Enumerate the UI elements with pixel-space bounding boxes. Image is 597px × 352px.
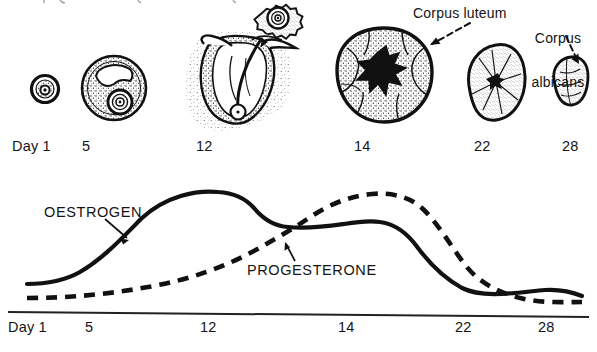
corpus-albicans-line-1: Corpus: [525, 31, 591, 46]
axis-tick-label-day-1: Day 1: [8, 320, 47, 335]
corpus-albicans-line-2: albicans: [525, 75, 591, 90]
axis-tick-label-5: 5: [85, 320, 93, 335]
series-label-oestrogen: OESTROGEN: [44, 205, 142, 220]
corpus-luteum-annotation: Corpus luteum: [413, 6, 507, 21]
illustration-day-14-corpus-luteum: [337, 28, 432, 122]
axis-tick-label-22: 22: [455, 320, 472, 335]
progesterone-leader-line: [285, 242, 296, 261]
ovarian-cycle-figure: Corpus luteum Corpus albicans Day 1 5 12…: [0, 0, 597, 352]
top-day-label-5: 5: [82, 139, 90, 154]
top-day-label-22: 22: [474, 139, 491, 154]
top-day-label-14: 14: [354, 139, 371, 154]
axis-tick-label-28: 28: [538, 320, 555, 335]
cropped-caption-remnants: [44, 0, 236, 3]
illustration-day-12-ovulation: [186, 5, 303, 131]
series-label-progesterone: PROGESTERONE: [247, 263, 377, 278]
x-axis-baseline: [8, 312, 589, 317]
corpus-albicans-annotation: Corpus albicans: [525, 2, 591, 120]
figure-canvas: [0, 0, 597, 352]
top-day-label-1: Day 1: [12, 139, 51, 154]
illustration-day-22-regressing-corpus-luteum: [469, 45, 526, 121]
top-day-label-28: 28: [562, 139, 579, 154]
illustration-day-5-graafian-follicle: [82, 56, 146, 120]
axis-tick-label-12: 12: [200, 320, 217, 335]
corpus-luteum-leader-line: [430, 23, 470, 45]
illustration-day-1-primordial-follicle: [32, 76, 59, 103]
top-day-label-12: 12: [196, 139, 213, 154]
axis-tick-label-14: 14: [338, 320, 355, 335]
